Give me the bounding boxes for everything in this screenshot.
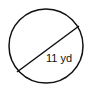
diameter-line: [17, 26, 79, 72]
diameter-label: 11 yd: [46, 52, 72, 64]
circle: [9, 9, 83, 83]
circle-diagram: 11 yd: [0, 0, 92, 91]
